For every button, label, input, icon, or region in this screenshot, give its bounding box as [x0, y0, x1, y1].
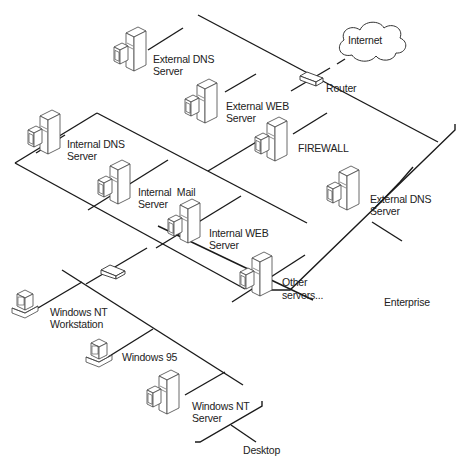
windows-nt-server-icon — [147, 370, 179, 414]
enterprise-bracket — [268, 124, 455, 290]
windows-95-workstation-icon — [86, 339, 112, 367]
windows-nt-server-label-1: Windows NT — [192, 400, 250, 412]
link-ext-dns-1 — [148, 28, 183, 50]
external-dns-server-label-2: Server — [153, 65, 183, 77]
hub-icon — [101, 265, 125, 279]
external-dns-server-2-label-1: External DNS — [370, 193, 431, 205]
internet-label: Internet — [348, 34, 382, 46]
internal-dns-server-label-2: Server — [67, 150, 97, 162]
internal-dns-server-icon — [28, 110, 60, 154]
windows-95-label: Windows 95 — [122, 351, 177, 363]
other-servers-icon — [240, 252, 272, 296]
external-web-server-icon — [185, 79, 217, 123]
windows-nt-server-label-2: Server — [192, 412, 222, 424]
windows-nt-workstation-label-2: Workstation — [50, 318, 103, 330]
desktop-zone-label: Desktop — [243, 444, 280, 456]
internal-mail-server-label-2: Server — [138, 198, 168, 210]
enterprise-leader — [372, 222, 402, 241]
enterprise-zone-label: Enterprise — [384, 296, 430, 308]
firewall-server-icon — [255, 117, 287, 161]
link-nt-ws — [38, 282, 82, 308]
link-nt-server — [185, 372, 225, 395]
windows-nt-workstation-label-1: Windows NT — [50, 306, 108, 318]
other-servers-label-2: servers... — [282, 289, 323, 301]
link-firewall-dmz — [293, 113, 327, 134]
internal-mail-server-label-1: Internal Mail — [138, 186, 195, 198]
internal-web-server-label-1: Internal WEB — [209, 227, 268, 239]
link-router-internet — [337, 59, 345, 64]
external-dns-server-2-label-2: Server — [370, 205, 400, 217]
router-label: Router — [326, 82, 356, 94]
external-web-server-label-2: Server — [226, 112, 256, 124]
link-firewall-internal — [208, 141, 258, 171]
other-servers-label-1: Other — [282, 276, 307, 288]
desktop-leader — [231, 425, 256, 442]
internal-web-server-label-2: Server — [209, 239, 239, 251]
windows-nt-workstation-icon — [12, 290, 38, 318]
external-dns-server-2-icon — [327, 166, 359, 210]
internal-web-server-icon — [168, 199, 200, 243]
external-web-server-label-1: External WEB — [226, 100, 289, 112]
internal-mail-server-icon — [98, 160, 130, 204]
firewall-label: FIREWALL — [298, 142, 349, 154]
link-ext-web — [225, 74, 256, 92]
external-dns-server-icon — [114, 27, 146, 71]
internal-dns-server-label-1: Internal DNS — [67, 138, 125, 150]
external-dns-server-label-1: External DNS — [153, 53, 214, 65]
